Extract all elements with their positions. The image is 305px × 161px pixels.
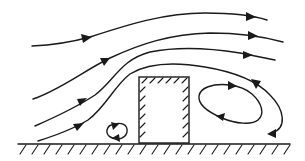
airflow-diagram: Airflow streamlines around a building on… — [0, 0, 305, 161]
hatched-ground-surface — [18, 144, 290, 154]
arrow-icon — [216, 113, 225, 121]
arrow-icon — [246, 12, 256, 21]
streamline-1 — [32, 12, 267, 46]
arrow-icon — [251, 79, 261, 89]
arrow-icon — [81, 34, 92, 43]
arrow-icon — [248, 31, 258, 40]
windward-corner-eddy — [107, 122, 127, 142]
arrow-icon — [112, 134, 120, 142]
leeward-recirculation-vortex — [199, 81, 262, 123]
arrow-icon — [243, 51, 253, 59]
arrow-icon — [228, 81, 237, 90]
building-block — [139, 77, 189, 143]
arrow-icon — [267, 129, 276, 138]
diagram-canvas — [0, 0, 305, 161]
